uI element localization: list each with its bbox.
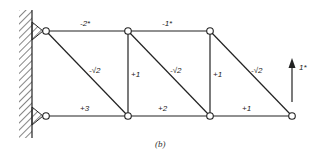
node — [207, 28, 214, 35]
label-top-chord-2: -1* — [162, 19, 173, 28]
label-vertical-1: +1 — [131, 70, 140, 79]
figure-caption: (b) — [155, 139, 166, 149]
label-top-chord-1: -2* — [80, 19, 91, 28]
diagonal-2 — [128, 31, 210, 116]
node — [289, 113, 296, 120]
label-diagonal-2: -√2 — [170, 66, 182, 75]
label-bottom-chord-2: +2 — [158, 104, 168, 113]
label-bottom-chord-3: +1 — [242, 104, 251, 113]
node — [125, 28, 132, 35]
label-bottom-chord-1: +3 — [80, 104, 90, 113]
truss-diagram: -2* -1* -√2 -√2 -√2 +1 +1 +3 +2 +1 1* (b… — [0, 0, 318, 159]
node — [43, 28, 50, 35]
node — [207, 113, 214, 120]
load-arrow-icon — [289, 58, 296, 102]
label-vertical-2: +1 — [213, 70, 222, 79]
label-load: 1* — [299, 63, 307, 72]
label-diagonal-3: -√2 — [251, 66, 263, 75]
wall-support — [19, 10, 43, 138]
node — [43, 113, 50, 120]
node — [125, 113, 132, 120]
label-diagonal-1: -√2 — [89, 66, 101, 75]
